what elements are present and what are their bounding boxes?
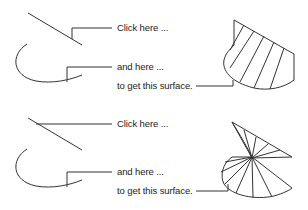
- top-arc-curve: [16, 44, 82, 82]
- top-click-leader: [72, 28, 112, 39]
- top-and-here-label: and here ...: [117, 61, 164, 72]
- bottom-line-curve: [28, 118, 82, 150]
- top-click-here-label: Click here ...: [117, 22, 168, 33]
- top-surface-leader: [196, 80, 233, 86]
- bottom-andhere-leader: [67, 172, 112, 187]
- top-result-label: to get this surface.: [117, 80, 193, 91]
- bottom-click-here-label: Click here ...: [117, 118, 168, 129]
- bottom-surface: [221, 122, 292, 198]
- top-line-curve: [28, 13, 82, 45]
- bottom-surface-leader: [196, 184, 228, 191]
- bottom-result-label: to get this surface.: [117, 185, 193, 196]
- bottom-arc-curve: [16, 149, 82, 187]
- top-andhere-leader: [67, 67, 112, 82]
- top-surface: [224, 20, 294, 89]
- bottom-and-here-label: and here ...: [117, 166, 164, 177]
